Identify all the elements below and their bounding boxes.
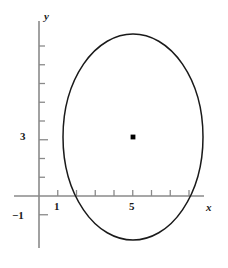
y-tick-label-neg1: −1 [12,210,24,221]
plot-canvas [0,0,228,268]
ellipse-plot-figure: 1 5 3 −1 x y [0,0,228,268]
y-axis-ticks [39,46,48,215]
y-tick-label-3: 3 [20,131,26,142]
ellipse-center-point [131,135,136,140]
x-axis-ticks [58,190,189,196]
y-axis-label: y [44,11,49,22]
x-tick-label-5: 5 [129,201,135,212]
x-axis-label: x [206,202,212,213]
x-tick-label-1: 1 [54,201,60,212]
